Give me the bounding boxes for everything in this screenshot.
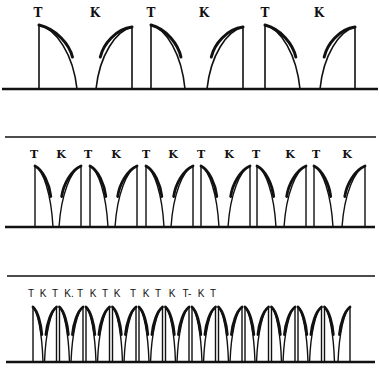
articulation-pulse-diagram: TKTKTK TKTKTKTKTKTK TKTK.TKTKTKTKT-KT	[0, 0, 380, 375]
label-t: T	[84, 148, 93, 161]
label-k: K	[198, 288, 205, 299]
label-t: T	[30, 148, 39, 161]
label-t: T	[34, 6, 43, 20]
label-t: T	[252, 148, 261, 161]
label-k: K	[285, 148, 295, 161]
label-k: K	[114, 288, 121, 299]
label-k: K	[168, 148, 178, 161]
label-t: T	[210, 288, 216, 299]
label-k: K	[169, 288, 176, 299]
label-k: K	[90, 288, 97, 299]
label-t: T	[77, 288, 83, 299]
label-k: K	[143, 288, 150, 299]
label-t: T	[130, 288, 136, 299]
label-k: K	[342, 148, 352, 161]
label-k: K	[199, 6, 210, 20]
label-k: K	[314, 6, 325, 20]
label-k: K	[56, 148, 66, 161]
label-k: K	[111, 148, 121, 161]
label-t: T	[102, 288, 108, 299]
label-k: K	[40, 288, 47, 299]
label-t: T	[155, 288, 161, 299]
label-t: T-	[183, 288, 192, 299]
label-t: T	[197, 148, 206, 161]
label-t: T	[52, 288, 58, 299]
label-t: T	[28, 288, 34, 299]
label-t: T	[142, 148, 151, 161]
label-k: K	[224, 148, 234, 161]
label-t: T	[261, 6, 270, 20]
label-k: K	[90, 6, 101, 20]
label-t: T	[312, 148, 321, 161]
label-k: K.	[64, 288, 73, 299]
label-t: T	[147, 6, 156, 20]
